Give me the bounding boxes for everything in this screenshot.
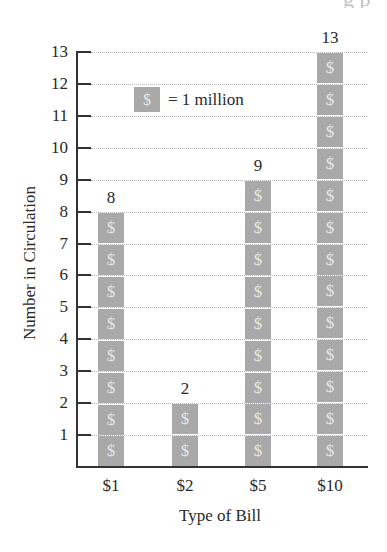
dollar-bill-icon: $: [98, 309, 124, 339]
y-axis-title: Number in Circulation: [20, 186, 40, 340]
dollar-bill-icon: $: [317, 245, 343, 275]
x-tick-label: $5: [233, 477, 283, 495]
dollar-bill-icon: $: [245, 404, 271, 434]
dollar-bill-icon: $: [317, 53, 343, 83]
dollar-bill-icon: $: [317, 276, 343, 306]
y-tick-label: 12: [38, 75, 68, 93]
dollar-bill-icon: $: [317, 436, 343, 466]
legend-text: = 1 million: [168, 90, 244, 110]
legend: $ = 1 million: [134, 87, 244, 112]
dollar-bill-icon: $: [98, 277, 124, 307]
bar-value-label: 8: [91, 189, 131, 207]
y-tick: [76, 338, 91, 340]
bar-usd1: $$$$$$$$: [98, 212, 124, 467]
x-tick-label: $2: [160, 477, 210, 495]
y-tick: [76, 243, 91, 245]
bar-value-label: 13: [310, 29, 350, 47]
dollar-bill-icon: $: [245, 436, 271, 466]
y-tick: [76, 51, 91, 53]
dollar-bill-icon: $: [245, 373, 271, 403]
y-tick: [76, 211, 91, 213]
bar-usd10: $$$$$$$$$$$$$: [317, 52, 343, 467]
y-tick-label: 6: [38, 266, 68, 284]
y-tick-label: 2: [38, 394, 68, 412]
y-tick: [76, 179, 91, 181]
dollar-bill-icon: $: [172, 436, 198, 466]
dollar-bill-icon: $: [317, 85, 343, 115]
y-tick-label: 11: [38, 107, 68, 125]
y-tick: [76, 115, 91, 117]
x-axis-title: Type of Bill: [150, 506, 290, 526]
y-tick-label: 8: [38, 203, 68, 221]
y-tick: [76, 306, 91, 308]
y-tick: [76, 370, 91, 372]
dollar-bill-icon: $: [98, 245, 124, 275]
dollar-bill-icon: $: [245, 213, 271, 243]
dollar-bill-icon: $: [317, 149, 343, 179]
dollar-bill-icon: $: [98, 436, 124, 466]
y-tick-label: 13: [38, 43, 68, 61]
y-tick: [76, 274, 91, 276]
dollar-bill-icon: $: [172, 404, 198, 434]
y-tick: [76, 434, 91, 436]
x-tick-label: $1: [86, 477, 136, 495]
y-tick-label: 3: [38, 362, 68, 380]
x-tick-label: $10: [305, 477, 355, 495]
dollar-bill-icon: $: [98, 405, 124, 435]
y-tick-label: 7: [38, 235, 68, 253]
cropped-header-text: g p: [0, 0, 387, 8]
dollar-bill-icon: $: [98, 373, 124, 403]
dollar-bill-icon: $: [245, 309, 271, 339]
dollar-bill-icon: $: [245, 245, 271, 275]
y-tick-label: 5: [38, 298, 68, 316]
y-tick: [76, 83, 91, 85]
dollar-bill-icon: $: [245, 277, 271, 307]
dollar-bill-icon: $: [317, 404, 343, 434]
dollar-bill-icon: $: [245, 341, 271, 371]
bar-value-label: 9: [238, 157, 278, 175]
dollar-bill-icon: $: [98, 213, 124, 243]
dollar-bill-icon: $: [317, 340, 343, 370]
y-tick-label: 9: [38, 171, 68, 189]
y-tick: [76, 147, 91, 149]
y-tick: [76, 402, 91, 404]
dollar-bill-icon: $: [245, 181, 271, 211]
bar-value-label: 2: [165, 380, 205, 398]
dollar-bill-icon: $: [317, 181, 343, 211]
dollar-bill-icon: $: [317, 308, 343, 338]
y-tick-label: 1: [38, 426, 68, 444]
bar-usd2: $$: [172, 403, 198, 467]
dollar-bill-icon: $: [317, 372, 343, 402]
dollar-bill-icon: $: [134, 87, 160, 112]
y-tick-label: 4: [38, 330, 68, 348]
bar-usd5: $$$$$$$$$: [245, 180, 271, 467]
dollar-bill-icon: $: [98, 341, 124, 371]
dollar-bill-icon: $: [317, 117, 343, 147]
y-tick-label: 10: [38, 139, 68, 157]
dollar-bill-icon: $: [317, 213, 343, 243]
